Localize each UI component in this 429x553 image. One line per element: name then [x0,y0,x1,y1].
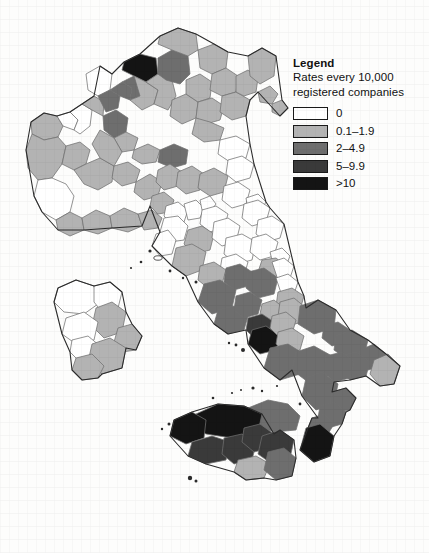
legend-items: 00.1–1.92–4.95–9.9>10 [293,105,425,193]
province-ravenna [226,156,254,182]
legend-row: >10 [293,175,425,193]
legend-label: 2–4.9 [336,142,365,155]
legend-swatch [293,160,328,173]
legend-label: 0.1–1.9 [336,125,374,138]
legend-swatch [293,142,328,155]
legend-label: 5–9.9 [336,160,365,173]
legend-row: 0.1–1.9 [293,123,425,141]
legend-row: 0 [293,105,425,123]
province-mantova [158,144,188,168]
province-genova [110,208,142,232]
legend: Legend Rates every 10,000 registered com… [293,56,425,193]
province-rovigo [192,118,224,142]
legend-swatch [293,177,328,190]
province-trieste [272,100,288,116]
legend-subtitle: Rates every 10,000 registered companies [293,70,425,99]
legend-row: 5–9.9 [293,158,425,176]
figure-canvas: Legend Rates every 10,000 registered com… [0,0,429,553]
legend-swatch [293,107,328,120]
province-cremona [132,144,160,164]
legend-label: 0 [336,107,342,120]
province-savona [82,210,112,234]
legend-title: Legend [293,56,425,70]
province-torino [26,134,66,180]
legend-swatch [293,125,328,138]
legend-label: >10 [336,177,356,190]
legend-row: 2–4.9 [293,140,425,158]
